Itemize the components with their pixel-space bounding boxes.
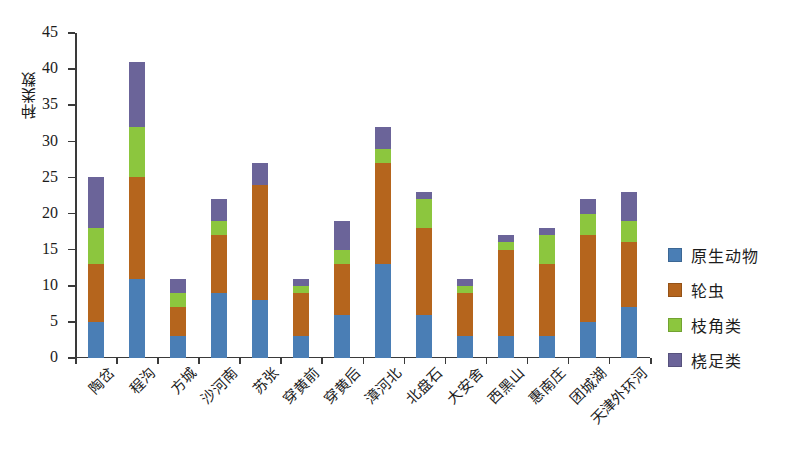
x-axis-label: 惠南庄 — [524, 362, 570, 408]
bar-segment-原生动物 — [457, 336, 473, 358]
bar-segment-原生动物 — [334, 315, 350, 358]
bar-segment-枝角类 — [334, 250, 350, 264]
legend-swatch-icon — [668, 283, 682, 297]
y-axis-title: 种类数 — [18, 40, 40, 150]
bar-segment-枝角类 — [539, 235, 555, 264]
y-tick: 20 — [68, 213, 75, 215]
bar-14[interactable] — [621, 192, 637, 358]
bar-segment-桡足类 — [539, 228, 555, 235]
bar-3[interactable] — [170, 279, 186, 358]
bar-5[interactable] — [252, 163, 268, 358]
bars-layer — [75, 33, 650, 358]
legend-swatch-icon — [668, 353, 682, 367]
bar-segment-桡足类 — [170, 279, 186, 293]
x-axis-label: 穿黄前 — [277, 362, 323, 408]
bar-segment-桡足类 — [88, 177, 104, 228]
bar-segment-轮虫 — [580, 235, 596, 322]
y-tick-label: 20 — [42, 204, 58, 222]
plot-area: 051015202530354045 — [75, 33, 650, 358]
x-axis-label: 西黑山 — [482, 362, 528, 408]
bar-segment-原生动物 — [539, 336, 555, 358]
legend-label: 轮虫 — [691, 278, 725, 302]
y-tick-label: 15 — [42, 240, 58, 258]
legend-item-2[interactable]: 轮虫 — [668, 278, 759, 302]
bar-segment-轮虫 — [416, 228, 432, 315]
bar-4[interactable] — [211, 199, 227, 358]
bar-segment-枝角类 — [129, 127, 145, 178]
bar-segment-轮虫 — [539, 264, 555, 336]
x-axis-label: 程沟 — [123, 362, 158, 397]
bar-segment-原生动物 — [375, 264, 391, 358]
bar-segment-原生动物 — [580, 322, 596, 358]
y-tick: 10 — [68, 285, 75, 287]
bar-segment-原生动物 — [129, 279, 145, 358]
bar-9[interactable] — [416, 192, 432, 358]
bar-segment-枝角类 — [293, 286, 309, 293]
bar-segment-轮虫 — [211, 235, 227, 293]
bar-segment-轮虫 — [293, 293, 309, 336]
bar-segment-桡足类 — [457, 279, 473, 286]
y-tick-label: 5 — [50, 312, 58, 330]
bar-7[interactable] — [334, 221, 350, 358]
legend-item-4[interactable]: 桡足类 — [668, 348, 759, 372]
y-tick: 40 — [68, 68, 75, 70]
legend-label: 原生动物 — [691, 243, 759, 267]
bar-segment-原生动物 — [498, 336, 514, 358]
legend-label: 桡足类 — [691, 348, 742, 372]
bar-12[interactable] — [539, 228, 555, 358]
bar-segment-原生动物 — [293, 336, 309, 358]
bar-segment-枝角类 — [170, 293, 186, 307]
stacked-bar-chart: 种类数 051015202530354045 陶岔程沟方城沙河南苏张穿黄前穿黄后… — [0, 0, 803, 471]
legend-swatch-icon — [668, 318, 682, 332]
bar-segment-原生动物 — [170, 336, 186, 358]
chart-legend: 原生动物轮虫枝角类桡足类 — [668, 243, 759, 372]
legend-item-1[interactable]: 原生动物 — [668, 243, 759, 267]
bar-segment-轮虫 — [457, 293, 473, 336]
bar-13[interactable] — [580, 199, 596, 358]
legend-item-3[interactable]: 枝角类 — [668, 313, 759, 337]
x-axis-label: 漳河北 — [359, 362, 405, 408]
bar-segment-轮虫 — [498, 250, 514, 337]
y-tick: 0 — [68, 357, 75, 359]
bar-segment-枝角类 — [498, 242, 514, 249]
bar-segment-桡足类 — [252, 163, 268, 185]
bar-segment-原生动物 — [211, 293, 227, 358]
bar-2[interactable] — [129, 62, 145, 358]
bar-10[interactable] — [457, 279, 473, 358]
bar-6[interactable] — [293, 279, 309, 358]
bar-segment-枝角类 — [375, 149, 391, 163]
bar-segment-枝角类 — [211, 221, 227, 235]
bar-segment-轮虫 — [88, 264, 104, 322]
y-tick: 45 — [68, 32, 75, 34]
bar-segment-轮虫 — [334, 264, 350, 315]
bar-segment-桡足类 — [293, 279, 309, 286]
bar-11[interactable] — [498, 235, 514, 358]
y-tick-label: 45 — [42, 23, 58, 41]
legend-label: 枝角类 — [691, 313, 742, 337]
bar-segment-轮虫 — [252, 185, 268, 301]
bar-8[interactable] — [375, 127, 391, 358]
x-axis-labels: 陶岔程沟方城沙河南苏张穿黄前穿黄后漳河北北盘石大安舍西黑山惠南庄团城湖天津外环河 — [75, 362, 650, 467]
y-tick-label: 40 — [42, 59, 58, 77]
x-tick — [650, 358, 652, 364]
bar-1[interactable] — [88, 177, 104, 358]
bar-segment-桡足类 — [375, 127, 391, 149]
bar-segment-原生动物 — [88, 322, 104, 358]
y-tick-label: 25 — [42, 168, 58, 186]
bar-segment-桡足类 — [129, 62, 145, 127]
bar-segment-桡足类 — [498, 235, 514, 242]
x-axis-label: 北盘石 — [400, 362, 446, 408]
y-tick-label: 0 — [50, 348, 58, 366]
bar-segment-原生动物 — [252, 300, 268, 358]
bar-segment-桡足类 — [580, 199, 596, 213]
x-axis-label: 大安舍 — [441, 362, 487, 408]
bar-segment-枝角类 — [457, 286, 473, 293]
y-tick: 35 — [68, 104, 75, 106]
bar-segment-轮虫 — [129, 177, 145, 278]
x-axis-label: 陶岔 — [82, 362, 117, 397]
y-tick: 30 — [68, 141, 75, 143]
y-tick: 25 — [68, 177, 75, 179]
y-tick-label: 30 — [42, 132, 58, 150]
legend-swatch-icon — [668, 248, 682, 262]
bar-segment-原生动物 — [621, 307, 637, 358]
